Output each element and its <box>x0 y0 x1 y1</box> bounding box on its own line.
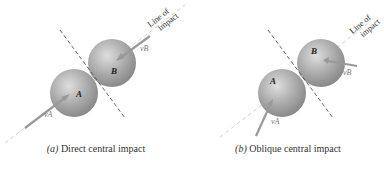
caption-oblique-impact: (b) Oblique central impact <box>192 143 384 154</box>
sphere-a-label: A <box>270 76 276 86</box>
panel-direct-impact: A B vA vB Line of impact (a) Direct cent… <box>0 0 192 172</box>
sphere-b <box>88 39 136 87</box>
sphere-b-label: B <box>311 46 317 56</box>
velocity-a-label: vA <box>271 117 279 126</box>
sphere-a <box>258 69 306 117</box>
caption-direct-impact: (a) Direct central impact <box>0 143 192 154</box>
panel-oblique-impact: A B vA vB Line of impact (b) Oblique cen… <box>192 0 384 172</box>
sphere-a <box>50 69 98 117</box>
velocity-b-label: vB <box>140 44 148 53</box>
sphere-b-label: B <box>111 66 117 76</box>
velocity-b-label: vB <box>343 68 351 77</box>
velocity-a-label: vA <box>44 110 52 119</box>
sphere-a-label: A <box>76 89 82 99</box>
